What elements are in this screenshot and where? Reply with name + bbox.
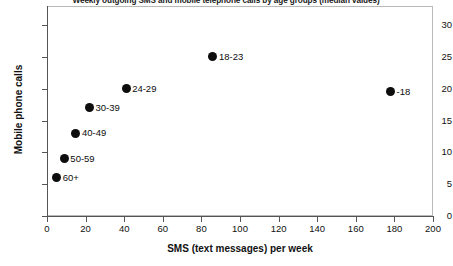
data-point-label: 50-59 <box>70 153 94 164</box>
x-tick-mark <box>317 217 318 222</box>
y-tick-label: 10 <box>414 146 452 157</box>
x-tick-label: 60 <box>143 223 183 234</box>
x-tick-label: 140 <box>297 223 337 234</box>
x-tick-label: 40 <box>104 223 144 234</box>
data-point-label: 18-23 <box>219 51 243 62</box>
data-point-label: -18 <box>397 86 411 97</box>
y-tick-mark <box>42 184 47 185</box>
y-tick-mark <box>42 152 47 153</box>
x-tick-mark <box>47 217 48 222</box>
y-axis-title: Mobile phone calls <box>13 30 24 190</box>
data-point-label: 40-49 <box>82 127 106 138</box>
x-tick-mark <box>394 217 395 222</box>
data-point-label: 24-29 <box>132 83 156 94</box>
data-point-label: 30-39 <box>95 102 119 113</box>
y-tick-label: 5 <box>414 178 452 189</box>
data-point <box>122 84 131 93</box>
y-tick-label: 15 <box>414 115 452 126</box>
x-tick-label: 100 <box>220 223 260 234</box>
y-tick-mark <box>42 89 47 90</box>
x-tick-mark <box>124 217 125 222</box>
y-tick-mark <box>42 57 47 58</box>
y-tick-mark <box>42 25 47 26</box>
x-tick-label: 0 <box>27 223 67 234</box>
x-tick-label: 80 <box>181 223 221 234</box>
x-axis-title: SMS (text messages) per week <box>47 243 433 254</box>
y-axis-line <box>47 6 48 217</box>
x-tick-label: 200 <box>413 223 453 234</box>
x-tick-mark <box>240 217 241 222</box>
x-tick-mark <box>433 217 434 222</box>
x-tick-label: 20 <box>66 223 106 234</box>
x-tick-mark <box>86 217 87 222</box>
x-tick-mark <box>279 217 280 222</box>
y-tick-label: 25 <box>414 51 452 62</box>
data-point-label: 60+ <box>63 172 79 183</box>
x-tick-label: 160 <box>336 223 376 234</box>
x-tick-mark <box>356 217 357 222</box>
y-tick-mark <box>42 121 47 122</box>
x-tick-label: 120 <box>259 223 299 234</box>
x-tick-mark <box>163 217 164 222</box>
x-tick-mark <box>201 217 202 222</box>
y-tick-label: 20 <box>414 83 452 94</box>
x-tick-label: 180 <box>374 223 414 234</box>
y-tick-label: 30 <box>414 19 452 30</box>
chart-title: Weekly outgoing SMS and mobile telephone… <box>0 0 452 5</box>
